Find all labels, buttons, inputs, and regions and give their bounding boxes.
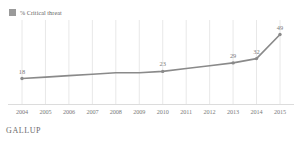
x-axis-tick-2005: 2005 xyxy=(40,106,52,118)
data-point-label: 18 xyxy=(19,68,25,75)
data-point-marker xyxy=(278,33,281,36)
data-point-label: 49 xyxy=(277,24,283,31)
series-line-critical-threat xyxy=(22,35,280,79)
legend-label: % Critical threat xyxy=(20,9,62,16)
x-axis-tick-labels: 2004200520062007200820092010201120122013… xyxy=(0,106,302,118)
data-point-label: 32 xyxy=(253,48,259,55)
x-axis-tick-2014: 2014 xyxy=(251,106,263,118)
data-point-label: 29 xyxy=(230,52,236,59)
x-axis-tick-2008: 2008 xyxy=(110,106,122,118)
data-point-marker xyxy=(231,61,234,64)
chart-legend: % Critical threat xyxy=(9,7,62,17)
data-point-marker xyxy=(20,77,23,80)
x-axis-tick-2013: 2013 xyxy=(227,106,239,118)
chart-plot-area: 1823293249 xyxy=(0,20,302,105)
series-markers xyxy=(20,33,281,80)
x-axis-tick-2006: 2006 xyxy=(63,106,75,118)
data-point-marker xyxy=(255,57,258,60)
data-point-label: 23 xyxy=(160,60,166,67)
x-axis-tick-2011: 2011 xyxy=(180,106,192,118)
x-axis-tick-2009: 2009 xyxy=(133,106,145,118)
x-axis-tick-2010: 2010 xyxy=(157,106,169,118)
series-data-labels: 1823293249 xyxy=(19,24,283,75)
x-axis-tick-2007: 2007 xyxy=(86,106,98,118)
x-axis-tick-2004: 2004 xyxy=(16,106,28,118)
gallup-wordmark: GALLUP xyxy=(6,126,41,136)
x-axis-tick-2012: 2012 xyxy=(204,106,216,118)
legend-swatch-icon xyxy=(9,9,16,16)
x-axis-tick-2015: 2015 xyxy=(274,106,286,118)
line-chart-svg: 1823293249 xyxy=(0,20,302,105)
data-point-marker xyxy=(161,70,164,73)
